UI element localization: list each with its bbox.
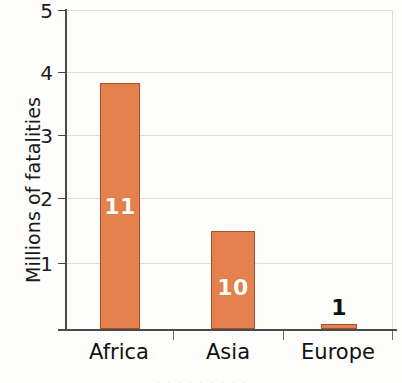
gridline-4 <box>65 72 393 73</box>
y-tick-label-5: 5 <box>0 1 53 21</box>
bar-asia: 10 <box>211 231 255 329</box>
category-separator-1 <box>173 331 174 340</box>
category-separator-2 <box>283 331 284 340</box>
y-axis-tick-labels: 5 4 3 2 1 <box>0 0 53 383</box>
y-tick-label-4: 4 <box>0 63 53 83</box>
y-tick-mark-3 <box>58 135 67 136</box>
cut-off-caption: · · · · · · · · · <box>0 374 402 383</box>
y-axis-line <box>65 9 67 331</box>
x-axis-label-asia: Asia <box>173 340 283 364</box>
chart-figure: Millions of fatalities 5 4 3 2 1 11 10 1 <box>0 0 402 383</box>
y-tick-label-3: 3 <box>0 126 53 146</box>
y-tick-mark-1 <box>58 263 67 264</box>
y-tick-mark-5 <box>58 10 67 11</box>
y-tick-label-1: 1 <box>0 254 53 274</box>
bar-label-europe: 1 <box>322 295 356 320</box>
category-separator-3 <box>392 331 393 340</box>
plot-right-border <box>392 10 393 330</box>
y-tick-mark-4 <box>58 72 67 73</box>
y-tick-label-2: 2 <box>0 189 53 209</box>
x-axis-label-africa: Africa <box>65 340 173 364</box>
plot-area: 11 10 1 <box>65 10 393 330</box>
x-axis-label-europe: Europe <box>283 340 393 364</box>
y-tick-mark-2 <box>58 198 67 199</box>
gridline-5 <box>65 10 393 11</box>
x-axis-line <box>58 329 397 331</box>
y-tick-mark-0 <box>58 329 67 330</box>
bar-label-asia: 10 <box>212 275 254 300</box>
bar-africa: 11 <box>100 83 140 329</box>
bar-label-africa: 11 <box>101 194 139 219</box>
